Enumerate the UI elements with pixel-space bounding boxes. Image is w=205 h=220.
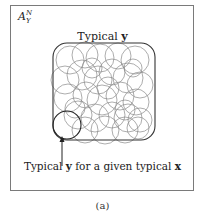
label-bold-var: x xyxy=(175,160,181,172)
typical-y-given-x-label: Typical y for a given typical x xyxy=(0,160,205,172)
figure-caption: (a) xyxy=(0,200,205,211)
label-text: for a given typical xyxy=(72,160,175,172)
typical-y-circles xyxy=(51,42,153,144)
label-text: Typical xyxy=(24,160,66,172)
highlighted-circle xyxy=(53,111,81,139)
circles-diagram xyxy=(0,0,205,220)
